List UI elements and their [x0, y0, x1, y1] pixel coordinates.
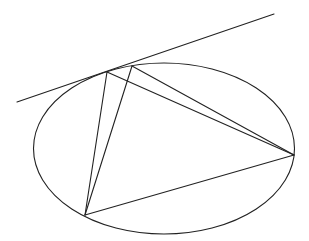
diagram-canvas	[0, 0, 309, 241]
segment-BC	[132, 66, 294, 155]
segment-AC	[107, 72, 294, 155]
segment-BD	[85, 66, 132, 215]
segment-DC	[85, 155, 294, 215]
ellipse	[34, 63, 295, 234]
chord-segments	[85, 66, 294, 215]
segment-AD	[85, 72, 107, 215]
